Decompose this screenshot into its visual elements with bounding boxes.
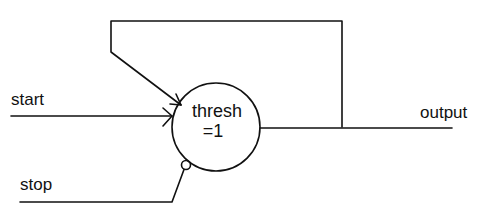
stop-label: stop bbox=[20, 176, 52, 193]
output-label: output bbox=[420, 104, 467, 121]
thresh-node-value: =1 bbox=[178, 121, 248, 141]
diagram-canvas: start stop output thresh =1 bbox=[0, 0, 480, 212]
inhibitor-bubble-icon bbox=[182, 161, 191, 170]
start-arrowhead-icon bbox=[163, 108, 172, 126]
thresh-node-name: thresh bbox=[186, 101, 248, 121]
thresh-node-label: thresh =1 bbox=[186, 101, 248, 141]
start-label: start bbox=[11, 91, 44, 108]
